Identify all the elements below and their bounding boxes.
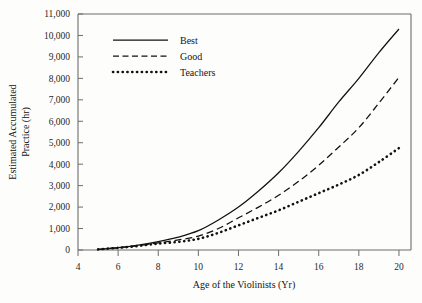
y-tick-label: 3,000 xyxy=(49,181,71,191)
y-axis-title-line1: Estimated Accumulated xyxy=(7,84,18,179)
x-tick-label: 18 xyxy=(354,262,364,272)
axes xyxy=(78,14,411,250)
y-tick-label: 11,000 xyxy=(44,9,70,19)
series-line-good xyxy=(98,77,399,249)
line-chart: 01,0002,0003,0004,0005,0006,0007,0008,00… xyxy=(0,0,422,303)
x-tick-group xyxy=(78,250,399,256)
y-tick-label: 6,000 xyxy=(49,117,71,127)
chart-figure: 01,0002,0003,0004,0005,0006,0007,0008,00… xyxy=(0,0,422,303)
y-tick-label-group: 01,0002,0003,0004,0005,0006,0007,0008,00… xyxy=(44,9,70,255)
x-tick-label: 14 xyxy=(274,262,284,272)
x-tick-label: 8 xyxy=(156,262,161,272)
legend: Best Good Teachers xyxy=(113,35,215,78)
y-tick-group xyxy=(78,14,83,250)
x-axis-title: Age of the Violinists (Yr) xyxy=(193,279,296,291)
x-tick-label-group: 468101214161820 xyxy=(76,262,404,272)
x-tick-label: 16 xyxy=(314,262,324,272)
y-axis-title-line2: Practice (hr) xyxy=(20,107,32,157)
y-tick-label: 2,000 xyxy=(49,202,71,212)
y-tick-label: 1,000 xyxy=(49,224,71,234)
x-tick-label: 12 xyxy=(234,262,244,272)
legend-label-teachers: Teachers xyxy=(180,67,215,78)
x-tick-label: 20 xyxy=(394,262,404,272)
series-line-best xyxy=(98,29,399,249)
y-tick-label: 10,000 xyxy=(44,31,70,41)
y-tick-label: 0 xyxy=(65,245,70,255)
y-tick-label: 9,000 xyxy=(49,52,71,62)
legend-label-good: Good xyxy=(180,51,202,62)
y-tick-label: 4,000 xyxy=(49,160,71,170)
x-tick-label: 4 xyxy=(76,262,81,272)
legend-label-best: Best xyxy=(180,35,198,46)
x-tick-label: 10 xyxy=(194,262,204,272)
y-tick-label: 5,000 xyxy=(49,138,71,148)
y-tick-label: 7,000 xyxy=(49,95,71,105)
x-tick-label: 6 xyxy=(116,262,121,272)
y-tick-label: 8,000 xyxy=(49,74,71,84)
